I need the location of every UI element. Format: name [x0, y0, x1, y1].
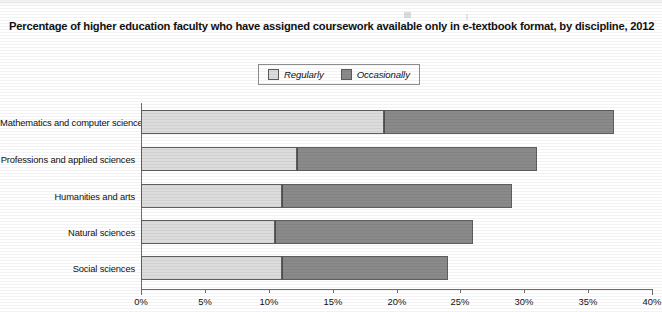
x-axis-tick-label: 15%	[324, 296, 343, 307]
x-axis-tick	[141, 289, 142, 295]
x-axis-tick	[652, 289, 653, 295]
category-label: Humanities and arts	[0, 191, 135, 202]
bar-segment-occasionally[interactable]	[384, 110, 614, 134]
category-label: Social sciences	[0, 263, 135, 274]
x-axis-tick	[588, 289, 589, 293]
x-axis-tick-label: 10%	[260, 296, 279, 307]
x-axis-tick-label: 30%	[515, 296, 534, 307]
x-axis-tick	[397, 289, 398, 293]
x-axis-tick	[460, 289, 461, 293]
bar-row[interactable]	[141, 110, 652, 134]
bar-row[interactable]	[141, 256, 652, 280]
chart-plot-area: 0%5%10%15%20%25%30%35%40% Mathematics an…	[0, 0, 662, 312]
bar-segment-regularly[interactable]	[141, 220, 275, 244]
bar-segment-occasionally[interactable]	[297, 147, 537, 171]
category-label: Natural sciences	[0, 227, 135, 238]
bar-row[interactable]	[141, 147, 652, 171]
x-axis-tick	[269, 289, 270, 293]
bar-segment-regularly[interactable]	[141, 184, 282, 208]
x-axis-tick	[524, 289, 525, 293]
x-axis-tick-label: 40%	[643, 296, 662, 307]
bar-row[interactable]	[141, 220, 652, 244]
x-axis-tick-label: 0%	[134, 296, 148, 307]
x-axis-tick-label: 35%	[579, 296, 598, 307]
bar-segment-regularly[interactable]	[141, 110, 384, 134]
x-axis-tick	[205, 289, 206, 293]
x-axis-tick-label: 25%	[451, 296, 470, 307]
x-axis-tick	[333, 289, 334, 293]
bar-segment-regularly[interactable]	[141, 147, 297, 171]
category-label: Professions and applied sciences	[0, 154, 135, 165]
bar-segment-occasionally[interactable]	[282, 256, 448, 280]
category-label: Mathematics and computer science	[0, 117, 135, 128]
x-axis-tick-label: 5%	[198, 296, 212, 307]
bar-segment-regularly[interactable]	[141, 256, 282, 280]
x-axis-tick-label: 20%	[388, 296, 407, 307]
bar-segment-occasionally[interactable]	[282, 184, 512, 208]
bar-row[interactable]	[141, 184, 652, 208]
bar-segment-occasionally[interactable]	[275, 220, 473, 244]
